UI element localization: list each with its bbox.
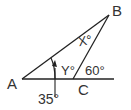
label-a: A <box>7 76 17 91</box>
angle-x-label: X° <box>77 33 93 48</box>
label-b: B <box>112 3 122 18</box>
angle-arc-a <box>51 58 55 79</box>
angle-60-label: 60° <box>85 64 105 77</box>
label-c: C <box>78 82 89 97</box>
angle-a-label: 35° <box>38 92 59 106</box>
angle-y-label: Y° <box>61 64 75 77</box>
